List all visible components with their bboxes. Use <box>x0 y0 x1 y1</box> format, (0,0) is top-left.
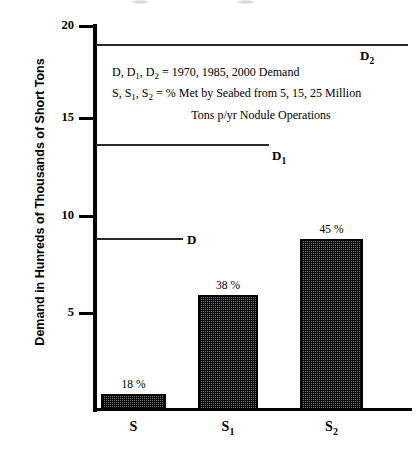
reference-line-d <box>96 238 183 240</box>
category-label-s1: S1 <box>198 419 258 437</box>
bar-s <box>101 394 166 410</box>
y-axis-line <box>93 24 97 412</box>
reference-label-d1: D1 <box>272 148 286 166</box>
reference-line-d1 <box>96 144 269 146</box>
bar-s2 <box>300 239 363 410</box>
bar-chart: Demand in Hunreds of Thousands of Short … <box>0 0 420 450</box>
y-tick-label-10: 10 <box>34 208 74 223</box>
reference-line-d2 <box>96 44 408 46</box>
y-tick-5 <box>79 312 96 315</box>
bar-value-s2: 45 % <box>300 223 363 235</box>
y-tick-label-20: 20 <box>34 18 74 33</box>
annotation-line-2: S, S1, S2 = % Met by Seabed from 5, 15, … <box>112 85 392 106</box>
category-label-s2: S2 <box>300 419 363 437</box>
reference-label-d2: D2 <box>360 48 374 66</box>
annotation-line-3: Tons p/yr Nodule Operations <box>112 107 392 124</box>
y-tick-15 <box>79 117 96 120</box>
chart-annotation: D, D1, D2 = 1970, 1985, 2000 Demand S, S… <box>112 64 392 124</box>
y-axis-title: Demand in Hunreds of Thousands of Short … <box>33 22 47 382</box>
y-tick-20 <box>79 25 96 28</box>
category-label-s: S <box>101 419 166 435</box>
scan-artifact <box>118 0 308 7</box>
annotation-line-1: D, D1, D2 = 1970, 1985, 2000 Demand <box>112 64 392 85</box>
bar-value-s: 18 % <box>101 378 166 390</box>
bar-s1 <box>198 295 258 410</box>
y-tick-label-15: 15 <box>34 110 74 125</box>
y-tick-label-5: 5 <box>34 305 74 320</box>
y-tick-10 <box>79 215 96 218</box>
bar-value-s1: 38 % <box>198 279 258 291</box>
reference-label-d: D <box>187 232 196 248</box>
